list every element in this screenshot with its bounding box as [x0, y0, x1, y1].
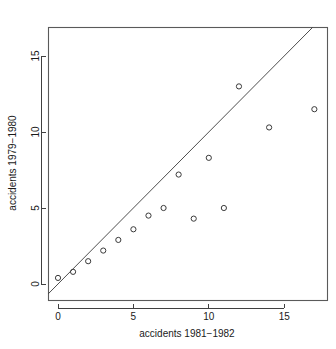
x-axis-tick-label: 5 [131, 311, 137, 322]
y-axis-title: accidents 1979−1980 [7, 115, 18, 211]
x-axis-tick-label: 15 [279, 311, 291, 322]
data-point [236, 84, 241, 89]
x-axis-tick-label: 10 [203, 311, 215, 322]
data-point [131, 227, 136, 232]
data-point [312, 107, 317, 112]
x-axis-title: accidents 1981−1982 [139, 328, 235, 339]
y-axis-tick-label: 15 [30, 50, 41, 62]
y-axis-tick-label: 5 [30, 205, 41, 211]
data-point [191, 216, 196, 221]
data-point [86, 259, 91, 264]
y-axis: 051015 [30, 50, 45, 287]
data-point [55, 275, 60, 280]
x-axis: 051015 [55, 304, 290, 323]
y-axis-tick-label: 10 [30, 126, 41, 138]
data-point [206, 155, 211, 160]
data-point [176, 172, 181, 177]
data-point [70, 269, 75, 274]
y-axis-tick-label: 0 [30, 281, 41, 287]
data-point [116, 237, 121, 242]
identity-reference-line [48, 28, 312, 294]
data-points-group [55, 84, 317, 281]
chart-canvas: 051015 051015 accidents 1981−1982 accide… [0, 0, 336, 349]
scatter-plot-figure: 051015 051015 accidents 1981−1982 accide… [0, 0, 336, 349]
data-point [101, 248, 106, 253]
data-point [161, 205, 166, 210]
data-point [221, 205, 226, 210]
identity-line [48, 28, 312, 294]
data-point [267, 125, 272, 130]
x-axis-tick-label: 0 [55, 311, 61, 322]
data-point [146, 213, 151, 218]
